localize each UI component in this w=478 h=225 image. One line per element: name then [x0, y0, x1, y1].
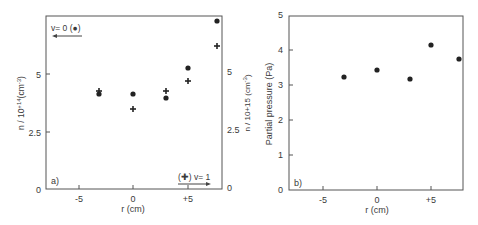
ytick-right-label-a-5: 5 — [227, 67, 232, 77]
series-partial-pressure — [341, 42, 461, 81]
plot-frame-a — [46, 16, 222, 189]
xtick-label-b-0: 0 — [374, 195, 379, 205]
xtick-label-b-m5: -5 — [319, 195, 327, 205]
y-axis-right-label-a-base: n / 10+15 (cm — [243, 82, 252, 131]
plot-frame-b — [289, 16, 463, 190]
svg-text:n / 10+15 (cm-3): n / 10+15 (cm-3) — [242, 74, 252, 131]
series-v1 — [96, 43, 220, 112]
panel-label-b: b) — [294, 178, 302, 188]
data-point — [214, 43, 220, 49]
x-axis-label-a: r (cm) — [121, 204, 145, 214]
xtick-label-a-0: 0 — [130, 194, 135, 204]
y-axis-label-a-base: n / 10 — [16, 108, 26, 130]
data-point — [374, 67, 379, 72]
xtick-label-a-p5: +5 — [183, 194, 193, 204]
ytick-label-b-4: 4 — [278, 45, 283, 55]
data-point — [341, 74, 346, 79]
y-axis-label-b: Partial pressure (Pa) — [264, 63, 274, 146]
arrow-right-icon — [206, 182, 211, 186]
data-point — [428, 42, 433, 47]
ytick-label-b-2: 2 — [278, 115, 283, 125]
panel-a: 5 2.5 0 5 2.5 0 -5 0 +5 r (cm) n / 10+14… — [16, 16, 252, 214]
y-axis-label-a: n / 10+14(cm-3) — [16, 76, 26, 130]
ytick-right-label-a-0: 0 — [227, 183, 232, 193]
data-point — [163, 88, 169, 94]
x-axis-label-b: r (cm) — [365, 205, 389, 215]
data-point — [407, 76, 412, 81]
ytick-label-b-3: 3 — [278, 80, 283, 90]
legend-v1: (✚) v= 1 — [178, 172, 211, 182]
ytick-label-b-1: 1 — [278, 150, 283, 160]
ytick-label-a-5: 5 — [36, 70, 41, 80]
data-point — [185, 78, 191, 84]
xtick-label-a-m5: -5 — [75, 194, 83, 204]
panel-b: 0 1 2 3 4 5 -5 0 +5 r (cm) Partial press… — [264, 10, 463, 215]
data-point — [185, 65, 190, 70]
figure: 5 2.5 0 5 2.5 0 -5 0 +5 r (cm) n / 10+14… — [0, 0, 478, 225]
y-axis-right-label-a: n / 10+15 (cm-3) — [242, 74, 252, 131]
ytick-label-a-0: 0 — [36, 185, 41, 195]
xtick-label-b-p5: +5 — [426, 195, 436, 205]
ytick-label-a-25: 2.5 — [28, 128, 41, 138]
panel-label-a: a) — [51, 176, 59, 186]
y-axis-label-b-text: Partial pressure (Pa) — [264, 63, 274, 146]
data-point — [214, 18, 219, 23]
ytick-label-b-0: 0 — [278, 185, 283, 195]
series-v0 — [96, 18, 219, 100]
legend-v0: v= 0 (●) — [51, 23, 81, 33]
data-point — [130, 106, 136, 112]
data-point — [456, 56, 461, 61]
ytick-label-b-5: 5 — [278, 10, 283, 20]
arrow-left-icon — [52, 34, 57, 38]
ytick-right-label-a-25: 2.5 — [227, 125, 240, 135]
data-point — [130, 91, 135, 96]
svg-text:n / 10+14(cm-3): n / 10+14(cm-3) — [16, 76, 26, 130]
data-point — [163, 95, 168, 100]
y-axis-label-a-unit: (cm — [16, 84, 26, 98]
